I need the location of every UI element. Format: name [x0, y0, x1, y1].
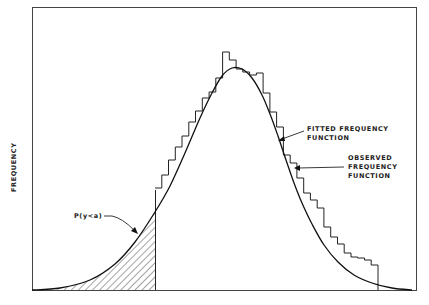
- frequency-figure: FREQUENCY FITTED FREQUENCY FUNCTION OBSE…: [0, 0, 429, 305]
- observed-leader-line: [298, 167, 344, 168]
- observed-histogram: [155, 52, 378, 290]
- fitted-label-line2: FUNCTION: [307, 134, 350, 142]
- fitted-label-line1: FITTED FREQUENCY: [307, 125, 389, 133]
- fitted-leader-line: [282, 131, 304, 139]
- observed-label-line2: FREQUENCY: [348, 163, 397, 171]
- tail-probability-label: P(y<a): [74, 212, 102, 220]
- observed-label-line3: FUNCTION: [348, 172, 391, 180]
- observed-label-line1: OBSERVED: [348, 154, 392, 162]
- y-axis-label: FREQUENCY: [10, 143, 18, 192]
- tail-leader-line: [104, 216, 134, 230]
- plot-frame: [33, 8, 417, 291]
